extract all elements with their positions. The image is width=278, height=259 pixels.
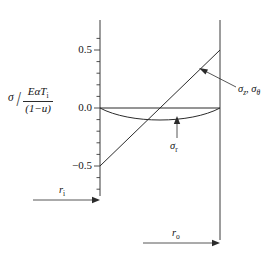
series-sigma-r bbox=[100, 108, 220, 120]
label-sigma-r-subscript: r bbox=[175, 145, 178, 154]
y-axis-numerator-subscript: i bbox=[46, 91, 48, 100]
label-sigma-z-theta: σz, σθ bbox=[238, 84, 260, 97]
y-axis-fraction-numerator: EαTi bbox=[26, 86, 51, 101]
y-major-ticks bbox=[94, 50, 100, 166]
label-inner-radius-subscript: i bbox=[63, 189, 65, 198]
arrow-head-ro bbox=[212, 240, 220, 246]
figure-canvas: σ / EαTi (1−u) 0.5 0.0 −0.5 σz, σθ σr ri… bbox=[0, 0, 278, 259]
y-axis-fraction-denominator: (1−u) bbox=[23, 101, 53, 115]
y-tick-label-0: 0.5 bbox=[58, 44, 92, 55]
label-inner-radius: ri bbox=[59, 185, 65, 198]
y-axis-divider: / bbox=[15, 88, 23, 113]
y-axis-sigma-symbol: σ bbox=[8, 91, 14, 109]
arrow-head-sigma-z-theta bbox=[199, 68, 208, 75]
y-axis-fraction: EαTi (1−u) bbox=[23, 86, 53, 115]
label-outer-radius: ro bbox=[172, 228, 180, 241]
label-outer-radius-subscript: o bbox=[176, 232, 180, 241]
y-tick-label-2: −0.5 bbox=[54, 160, 92, 171]
y-tick-label-1: 0.0 bbox=[58, 102, 92, 113]
y-axis-label: σ / EαTi (1−u) bbox=[8, 86, 53, 115]
arrow-head-sigma-r bbox=[174, 116, 180, 124]
plot-svg bbox=[0, 0, 278, 259]
label-sigma-theta-subscript: θ bbox=[257, 88, 261, 97]
y-minor-ticks bbox=[97, 38, 101, 189]
arrow-head-ri bbox=[92, 197, 100, 203]
label-sigma-r: σr bbox=[170, 141, 178, 154]
